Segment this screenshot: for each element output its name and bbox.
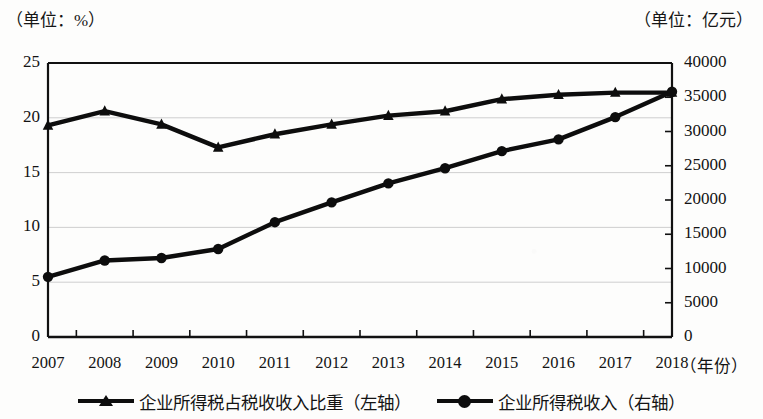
right-axis-tick-label: 10000 [684,258,744,278]
x-axis-tick-label: 2014 [429,353,462,373]
legend-label-revenue: 企业所得税收入（右轴） [498,389,685,414]
chart-container: （单位：%） （单位：亿元） 0510152025 05000100001500… [0,0,763,419]
right-axis-tick-label: 40000 [684,52,744,72]
x-axis-title: （年份） [680,353,748,377]
left-axis-tick-label: 5 [0,271,40,291]
circle-marker-icon [437,393,493,409]
x-axis-tick-label: 2011 [259,353,291,373]
x-axis-tick-label: 2017 [599,353,632,373]
x-axis-tick-label: 2013 [372,353,405,373]
right-axis-tick-label: 0 [684,326,744,346]
x-axis-tick-label: 2016 [542,353,575,373]
left-axis-tick-label: 10 [0,216,40,236]
x-axis-tick-label: 2015 [485,353,518,373]
legend-item-share[interactable]: 企业所得税占税收收入比重（左轴） [78,389,411,414]
x-axis-tick-label: 2008 [88,353,121,373]
series-layer [43,87,678,282]
x-axis-tick-label: 2009 [145,353,178,373]
right-axis-tick-label: 35000 [684,86,744,106]
plot-frame [48,63,672,337]
legend-item-revenue[interactable]: 企业所得税收入（右轴） [437,389,685,414]
left-axis-tick-label: 0 [0,326,40,346]
right-axis-tick-label: 5000 [684,292,744,312]
left-axis-tick-label: 15 [0,162,40,182]
right-axis-tick-label: 25000 [684,155,744,175]
legend-label-share: 企业所得税占税收收入比重（左轴） [139,389,411,414]
triangle-marker-icon [78,393,134,409]
x-axis-tick-label: 2007 [32,353,65,373]
left-axis-tick-label: 25 [0,52,40,72]
right-axis-tick-label: 30000 [684,121,744,141]
left-axis-tick-label: 20 [0,107,40,127]
chart-legend: 企业所得税占税收收入比重（左轴） 企业所得税收入（右轴） [0,384,763,418]
right-axis-tick-label: 20000 [684,189,744,209]
x-axis-tick-label: 2012 [315,353,348,373]
right-axis-tick-label: 15000 [684,223,744,243]
x-axis-tick-label: 2010 [202,353,235,373]
